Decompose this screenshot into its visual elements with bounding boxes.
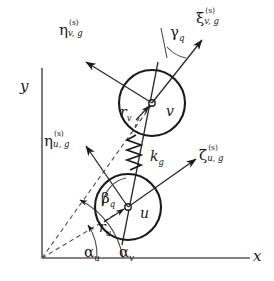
beta-q-base: β bbox=[101, 189, 110, 207]
eta-u-superscript: (s) bbox=[54, 130, 70, 138]
zeta-u-superscript: (s) bbox=[208, 144, 224, 152]
r-v-base: r bbox=[120, 104, 127, 120]
r-u-subscript: u bbox=[106, 228, 111, 238]
beta-q-subscript: q bbox=[110, 199, 115, 209]
alpha-v-subscript: v bbox=[129, 253, 134, 263]
alpha-v-label: αv bbox=[119, 244, 134, 263]
gear-v-radius-label: rv bbox=[120, 104, 132, 123]
r-u-base: r bbox=[99, 219, 106, 235]
r-v-subscript: v bbox=[127, 113, 132, 123]
alpha-u-label: αu bbox=[84, 244, 100, 263]
k-subscript: g bbox=[158, 157, 163, 167]
alpha-v-base: α bbox=[119, 243, 129, 261]
y-axis-label: y bbox=[20, 79, 28, 94]
gamma-q-subscript: q bbox=[179, 33, 184, 43]
gamma-q-arc bbox=[167, 47, 186, 58]
gamma-q-reference-line bbox=[161, 28, 167, 58]
xi-v-subscript: v, g bbox=[204, 17, 219, 25]
gear-v-center-label: v bbox=[166, 104, 174, 118]
diagram-canvas bbox=[0, 0, 274, 281]
eta-v-base: η bbox=[59, 21, 68, 39]
eta-u-subscript: u, g bbox=[53, 140, 69, 148]
zeta-u-base: ζ bbox=[199, 146, 207, 164]
xi-v-superscript: (s) bbox=[205, 7, 220, 15]
x-axis-label: x bbox=[253, 249, 261, 264]
xi-v-axis-label: ξ(s)v, g bbox=[196, 10, 219, 27]
eta-u-axis-label: η(s)u, g bbox=[44, 133, 69, 150]
alpha-u-base: α bbox=[84, 243, 94, 261]
eta-v-superscript: (s) bbox=[69, 19, 84, 27]
xi-v-base: ξ bbox=[196, 9, 204, 27]
mesh-spring bbox=[127, 135, 141, 170]
gamma-q-base: γ bbox=[170, 23, 179, 41]
gear-u-center-label: u bbox=[140, 206, 149, 220]
gear-u-radius-label: ru bbox=[99, 219, 111, 238]
gear-pair-diagram: y x η(s)v, g ξ(s)v, g η(s)u, g ζ(s)u, g … bbox=[0, 0, 274, 281]
beta-q-label: βq bbox=[101, 190, 115, 209]
alpha-u-subscript: u bbox=[94, 253, 99, 263]
gamma-q-label: γq bbox=[170, 24, 184, 43]
eta-v-subscript: v, g bbox=[68, 29, 83, 37]
eta-v-axis-label: η(s)v, g bbox=[59, 22, 83, 39]
spring-stiffness-label: kg bbox=[150, 148, 164, 167]
eta-u-base: η bbox=[44, 132, 53, 150]
zeta-u-subscript: u, g bbox=[207, 154, 223, 162]
zeta-u-axis-label: ζ(s)u, g bbox=[199, 147, 223, 164]
